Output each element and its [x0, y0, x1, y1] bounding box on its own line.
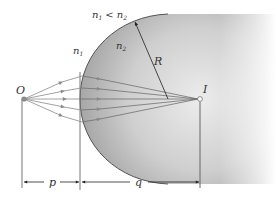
p-label: p: [49, 176, 56, 189]
q-label: q: [135, 176, 142, 189]
refraction-diagram: n1<n2 n1 n2 R O I p q: [0, 0, 276, 204]
incident-rays: [24, 76, 82, 122]
radius-label: R: [153, 55, 162, 68]
image-point: [198, 97, 203, 102]
image-label: I: [202, 83, 208, 96]
object-label: O: [16, 84, 25, 97]
object-point: [21, 96, 26, 101]
condition-label: n1<n2: [92, 9, 127, 21]
medium-n1-label: n1: [73, 45, 83, 57]
